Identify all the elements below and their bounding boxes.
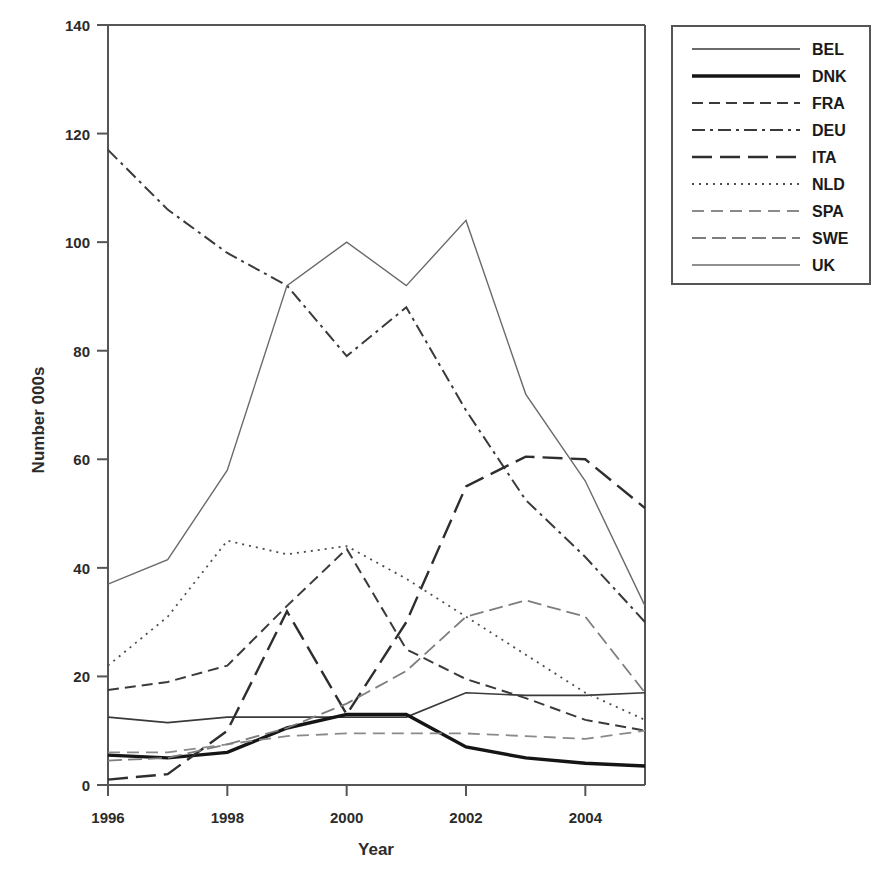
y-tick-label-0: 0	[82, 777, 90, 794]
data-series-group	[108, 150, 645, 780]
x-tick-label-1996: 1996	[91, 809, 124, 826]
line-chart-figure: 020406080100120140 19961998200020022004 …	[0, 0, 885, 876]
x-axis-ticks: 19961998200020022004	[91, 785, 602, 826]
legend-label-spa[interactable]: SPA	[812, 203, 844, 220]
legend-label-fra[interactable]: FRA	[812, 95, 845, 112]
y-tick-label-80: 80	[73, 343, 90, 360]
legend-label-ita[interactable]: ITA	[812, 149, 837, 166]
plot-frame	[108, 25, 645, 785]
series-line-ita	[108, 457, 645, 780]
legend-label-swe[interactable]: SWE	[812, 230, 849, 247]
legend-label-dnk[interactable]: DNK	[812, 68, 847, 85]
x-axis-title: Year	[358, 840, 394, 859]
series-line-nld	[108, 541, 645, 720]
x-tick-label-1998: 1998	[211, 809, 244, 826]
legend-group: BELDNKFRADEUITANLDSPASWEUK	[692, 41, 849, 274]
x-tick-label-2000: 2000	[330, 809, 363, 826]
series-line-bel	[108, 693, 645, 723]
y-tick-label-40: 40	[73, 560, 90, 577]
series-line-swe	[108, 600, 645, 760]
series-line-spa	[108, 731, 645, 753]
x-tick-label-2002: 2002	[449, 809, 482, 826]
y-axis-title: Number 000s	[29, 367, 48, 474]
y-tick-label-100: 100	[65, 234, 90, 251]
chart-svg: 020406080100120140 19961998200020022004 …	[0, 0, 885, 876]
legend-label-bel[interactable]: BEL	[812, 41, 844, 58]
legend-label-uk[interactable]: UK	[812, 257, 836, 274]
series-line-deu	[108, 150, 645, 622]
legend-label-nld[interactable]: NLD	[812, 176, 845, 193]
x-tick-label-2004: 2004	[569, 809, 603, 826]
y-tick-label-60: 60	[73, 451, 90, 468]
legend-label-deu[interactable]: DEU	[812, 122, 846, 139]
y-tick-label-140: 140	[65, 17, 90, 34]
y-axis-ticks: 020406080100120140	[65, 17, 108, 794]
series-line-uk	[108, 220, 645, 606]
y-tick-label-120: 120	[65, 126, 90, 143]
y-tick-label-20: 20	[73, 668, 90, 685]
series-line-fra	[108, 549, 645, 731]
